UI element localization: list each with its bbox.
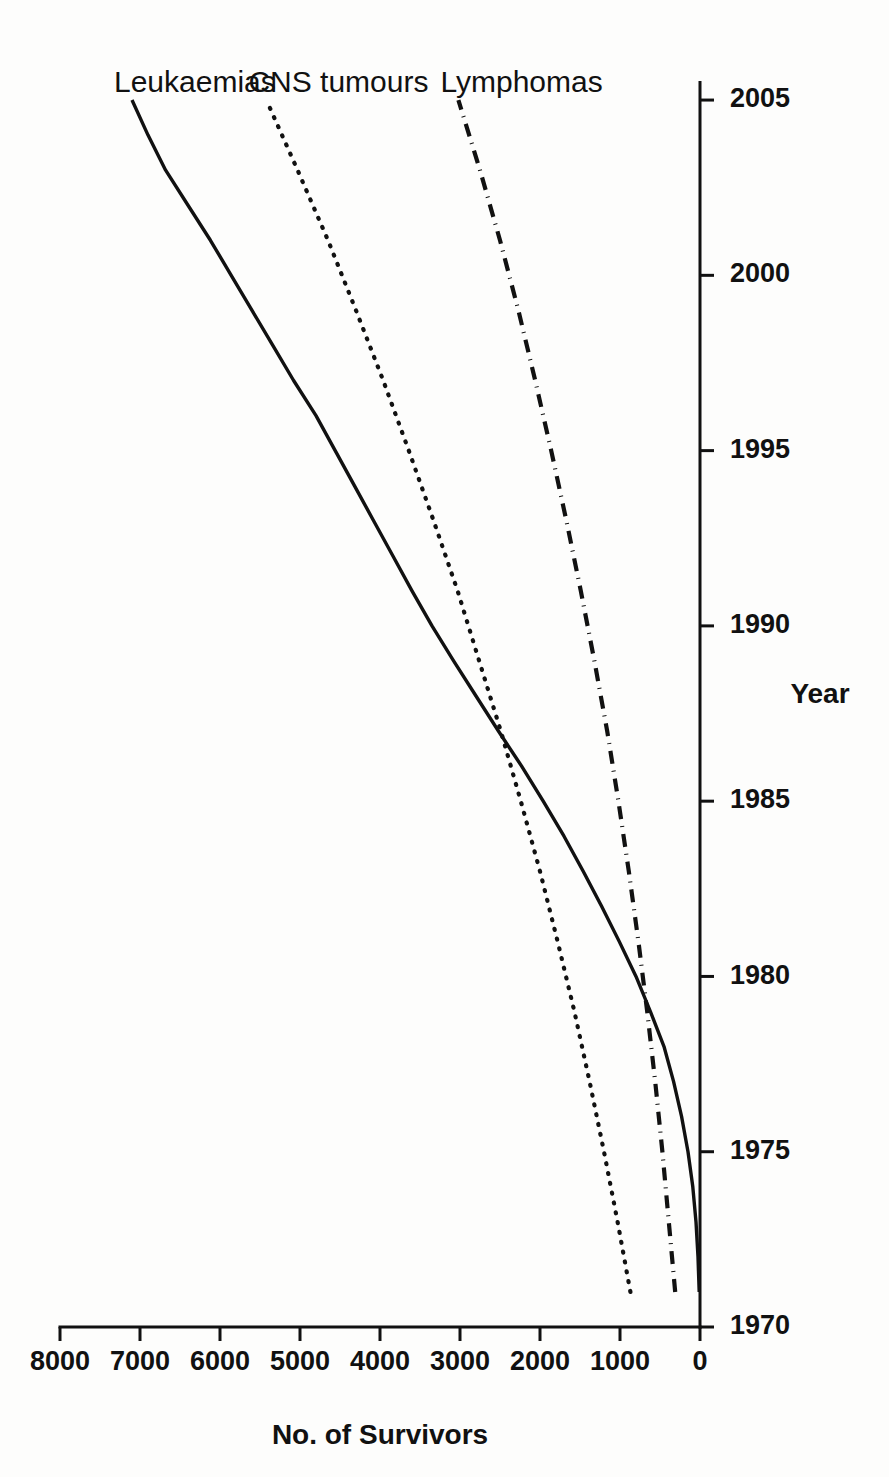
y-tick-label: 7000: [110, 1346, 170, 1376]
x-tick-label: 1970: [730, 1310, 790, 1340]
x-tick-label: 1980: [730, 960, 790, 990]
x-axis-ticks: 19701975198019851990199520002005: [700, 83, 790, 1340]
y-tick-label: 1000: [590, 1346, 650, 1376]
rotated-chart-container: 19701975198019851990199520002005 0100020…: [0, 0, 889, 1477]
x-tick-label: 1990: [730, 609, 790, 639]
y-tick-label: 0: [692, 1346, 707, 1376]
figure-page: 19701975198019851990199520002005 0100020…: [0, 0, 889, 1477]
y-axis-ticks: 010002000300040005000600070008000: [30, 1327, 708, 1376]
y-axis-title: No. of Survivors: [272, 1419, 488, 1450]
x-tick-label: 2005: [730, 83, 790, 113]
y-tick-label: 5000: [270, 1346, 330, 1376]
line-chart: 19701975198019851990199520002005 0100020…: [0, 0, 889, 1477]
y-tick-label: 3000: [430, 1346, 490, 1376]
x-tick-label: 1975: [730, 1135, 790, 1165]
x-tick-label: 2000: [730, 258, 790, 288]
y-tick-label: 4000: [350, 1346, 410, 1376]
series-label-lymphomas: Lymphomas: [440, 65, 602, 98]
y-tick-label: 8000: [30, 1346, 90, 1376]
x-tick-label: 1985: [730, 784, 790, 814]
series-label-cns-tumours: CNS tumours: [248, 65, 428, 98]
x-axis-title: Year: [790, 678, 849, 709]
series-line-cns-tumours: [266, 100, 630, 1292]
series-paths: [132, 100, 699, 1292]
series-labels: LeukaemiasCNS tumoursLymphomas: [114, 65, 603, 98]
x-tick-label: 1995: [730, 434, 790, 464]
series-line-leukaemias: [132, 100, 699, 1292]
y-tick-label: 2000: [510, 1346, 570, 1376]
y-tick-label: 6000: [190, 1346, 250, 1376]
